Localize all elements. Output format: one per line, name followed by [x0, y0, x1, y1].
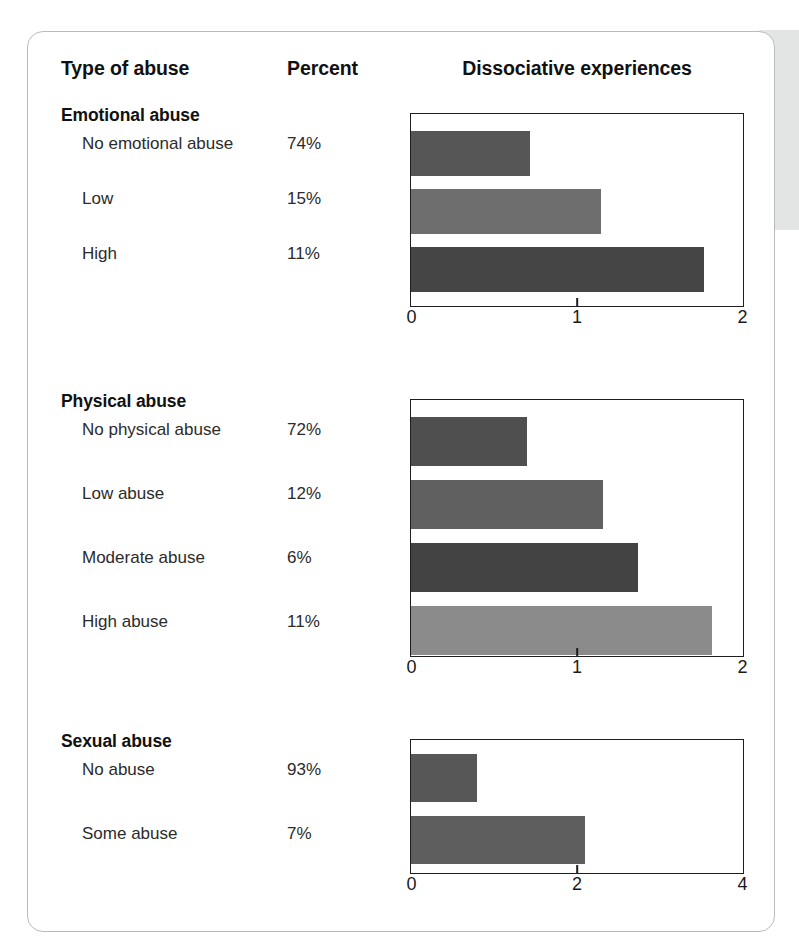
- section-emotional-abuse: Emotional abuse No emotional abuse 74% L…: [28, 105, 774, 350]
- axis-tick-label: 4: [737, 874, 747, 895]
- bar: [411, 189, 601, 234]
- bar: [411, 606, 712, 655]
- axis-tick-mark: [576, 298, 578, 307]
- x-axis-emotional-abuse: 012: [410, 307, 744, 333]
- row-percent: 7%: [287, 824, 312, 844]
- plot-area-physical-abuse: [410, 399, 744, 657]
- bar: [411, 131, 530, 176]
- bar-group: [411, 400, 743, 656]
- row-label: Moderate abuse: [82, 548, 205, 568]
- row-label: No emotional abuse: [82, 134, 233, 154]
- plot-area-emotional-abuse: [410, 113, 744, 307]
- axis-tick-mark: [576, 648, 578, 657]
- section-title: Emotional abuse: [61, 105, 200, 126]
- row-percent: 12%: [287, 484, 321, 504]
- column-header-percent: Percent: [287, 57, 358, 80]
- bar: [411, 480, 603, 529]
- row-percent: 11%: [287, 612, 320, 632]
- row-percent: 11%: [287, 244, 320, 264]
- row-label: No abuse: [82, 760, 155, 780]
- axis-tick-mark: [576, 865, 578, 874]
- row-percent: 93%: [287, 760, 321, 780]
- bar: [411, 417, 527, 466]
- axis-tick-label: 1: [572, 657, 582, 678]
- x-axis-physical-abuse: 012: [410, 657, 744, 683]
- row-label: No physical abuse: [82, 420, 221, 440]
- row-percent: 72%: [287, 420, 321, 440]
- axis-tick-label: 0: [407, 657, 417, 678]
- row-percent: 74%: [287, 134, 321, 154]
- row-percent: 6%: [287, 548, 312, 568]
- row-label: High: [82, 244, 117, 264]
- column-header-type-of-abuse: Type of abuse: [61, 57, 189, 80]
- table-header-row: Type of abuse Percent Dissociative exper…: [28, 57, 774, 91]
- x-axis-sexual-abuse: 024: [410, 874, 744, 900]
- axis-tick-label: 0: [407, 307, 417, 328]
- bar: [411, 754, 477, 802]
- bar: [411, 816, 585, 864]
- row-label: Some abuse: [82, 824, 177, 844]
- bar: [411, 543, 638, 592]
- row-label: Low: [82, 189, 113, 209]
- figure-card: Type of abuse Percent Dissociative exper…: [27, 31, 775, 932]
- section-title: Sexual abuse: [61, 731, 172, 752]
- row-percent: 15%: [287, 189, 321, 209]
- bar: [411, 247, 704, 292]
- plot-area-sexual-abuse: [410, 739, 744, 874]
- row-label: High abuse: [82, 612, 168, 632]
- bar-group: [411, 114, 743, 306]
- chart-title: Dissociative experiences: [410, 57, 744, 80]
- section-sexual-abuse: Sexual abuse No abuse 93% Some abuse 7% …: [28, 731, 774, 916]
- axis-tick-label: 1: [572, 307, 582, 328]
- axis-tick-label: 2: [572, 874, 582, 895]
- axis-tick-label: 2: [737, 307, 747, 328]
- bar-group: [411, 740, 743, 873]
- axis-tick-label: 0: [407, 874, 417, 895]
- axis-tick-label: 2: [737, 657, 747, 678]
- section-physical-abuse: Physical abuse No physical abuse 72% Low…: [28, 391, 774, 696]
- section-title: Physical abuse: [61, 391, 186, 412]
- row-label: Low abuse: [82, 484, 164, 504]
